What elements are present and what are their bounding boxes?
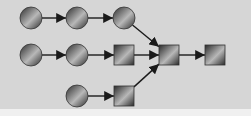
square-node-s1 <box>114 45 134 65</box>
square-node-s2 <box>159 45 179 65</box>
flow-graph <box>0 0 251 109</box>
circle-node-c2 <box>66 7 88 29</box>
square-node-s4 <box>114 86 134 106</box>
square-node-s3 <box>205 45 225 65</box>
nodes <box>20 7 225 107</box>
arrow-c3-to-s2 <box>132 25 159 47</box>
circle-node-c6 <box>66 85 88 107</box>
arrow-s4-to-s2 <box>134 64 159 87</box>
circle-node-c1 <box>20 7 42 29</box>
circle-node-c5 <box>66 44 88 66</box>
bottom-strip <box>0 109 251 116</box>
diagram-canvas <box>0 0 251 109</box>
circle-node-c4 <box>20 44 42 66</box>
circle-node-c3 <box>113 7 135 29</box>
